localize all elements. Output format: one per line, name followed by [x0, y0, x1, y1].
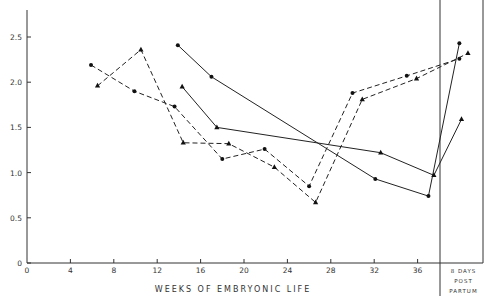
post-partum-label: PARTUM — [449, 288, 477, 294]
triangle-marker — [138, 47, 143, 52]
circle-marker — [209, 75, 213, 79]
x-tick-label: 4 — [68, 266, 73, 275]
circle-marker — [405, 74, 409, 78]
axes — [27, 0, 483, 296]
y-tick-label: 1.0 — [10, 169, 22, 178]
circle-marker — [457, 41, 461, 45]
x-tick-label: 0 — [25, 266, 30, 275]
circle-marker — [351, 91, 355, 95]
circle-marker — [263, 147, 267, 151]
circle-marker — [307, 184, 311, 188]
x-tick-label: 16 — [196, 266, 206, 275]
x-tick-label: 36 — [413, 266, 423, 275]
series-line — [178, 43, 460, 196]
triangle-marker — [272, 164, 277, 169]
x-tick-label: 8 — [111, 266, 116, 275]
triangle-marker — [465, 50, 470, 55]
series-line — [98, 50, 468, 203]
x-tick-label: 32 — [369, 266, 379, 275]
y-tick-label: 1.5 — [10, 123, 22, 132]
x-tick-label: 20 — [239, 266, 249, 275]
circle-marker — [220, 157, 224, 161]
circle-marker — [176, 43, 180, 47]
y-tick-label: 0.5 — [10, 214, 22, 223]
triangle-marker — [95, 83, 100, 88]
series-line — [182, 87, 461, 176]
triangle-marker — [313, 199, 318, 204]
y-tick-label: 2.5 — [10, 33, 22, 42]
x-tick-label: 28 — [326, 266, 336, 275]
series-solid-triangle — [180, 84, 465, 177]
triangle-marker — [459, 116, 464, 121]
post-partum-label: 8 DAYS — [451, 268, 477, 274]
triangle-marker — [226, 141, 231, 146]
x-tick-label: 12 — [152, 266, 162, 275]
y-tick-label: 2.0 — [10, 78, 22, 87]
triangle-marker — [180, 84, 185, 89]
circle-marker — [173, 105, 177, 109]
triangle-marker — [181, 140, 186, 145]
y-tick-label: 0 — [17, 259, 22, 268]
circle-marker — [373, 177, 377, 181]
circle-marker — [426, 194, 430, 198]
circle-marker — [89, 63, 93, 67]
line-chart: 00.51.01.52.02.504812162024283236WEEKS O… — [0, 0, 490, 300]
series-solid-circle — [176, 41, 462, 198]
labels: 00.51.01.52.02.504812162024283236WEEKS O… — [10, 33, 478, 294]
series-dashed-triangle — [95, 47, 471, 205]
x-tick-label: 24 — [283, 266, 293, 275]
series-layer — [89, 41, 471, 204]
circle-marker — [132, 89, 136, 93]
x-axis-title: WEEKS OF EMBRYONIC LIFE — [155, 285, 312, 294]
post-partum-label: POST — [454, 278, 473, 284]
